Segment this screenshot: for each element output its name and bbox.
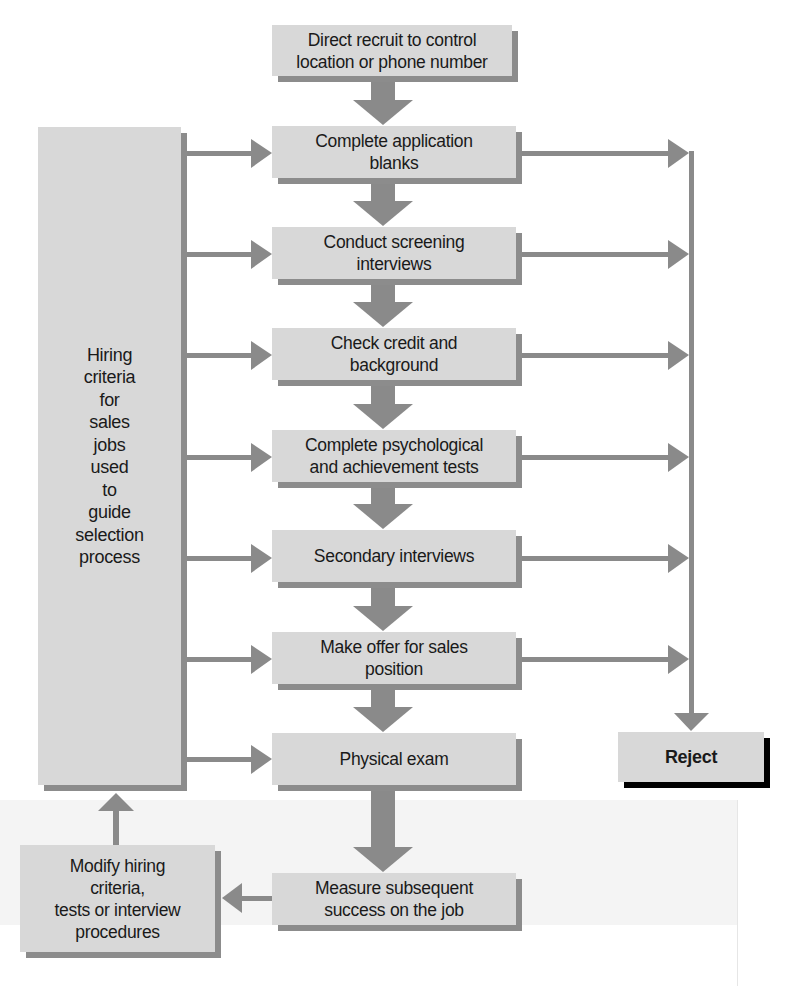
step-label: Secondary interviews <box>314 545 474 567</box>
right-arrow-icon <box>186 240 272 269</box>
step-label: Physical exam <box>340 748 449 770</box>
step-psych-tests: Complete psychological and achievement t… <box>272 430 516 482</box>
step-label: Check credit and background <box>331 332 458 376</box>
reject-label: Reject <box>665 746 717 768</box>
right-arrow-icon <box>186 139 272 168</box>
left-arrow-icon <box>222 883 272 913</box>
step-measure-success: Measure subsequent success on the job <box>272 873 516 925</box>
up-arrow-icon <box>98 793 134 845</box>
step-label: Conduct screening interviews <box>324 231 465 275</box>
step-label: Measure subsequent success on the job <box>315 877 473 921</box>
right-arrow-icon <box>186 745 272 774</box>
right-arrow-icon <box>186 443 272 472</box>
right-arrow-icon <box>522 443 689 472</box>
down-arrow-icon <box>353 385 413 429</box>
reject-box: Reject <box>618 732 764 782</box>
down-arrow-icon <box>353 284 413 327</box>
down-arrow-icon <box>353 183 413 226</box>
down-arrow-icon <box>353 587 413 631</box>
step-physical-exam: Physical exam <box>272 733 516 785</box>
right-arrow-icon <box>522 544 689 573</box>
step-make-offer: Make offer for sales position <box>272 632 516 684</box>
right-arrow-icon <box>186 544 272 573</box>
step-label: Complete psychological and achievement t… <box>305 434 483 478</box>
right-arrow-icon <box>522 139 689 168</box>
criteria-connector-bar <box>181 133 186 790</box>
down-arrow-icon <box>353 487 413 529</box>
modify-criteria-label: Modify hiring criteria, tests or intervi… <box>55 855 181 943</box>
down-arrow-icon <box>353 689 413 732</box>
step-secondary-interviews: Secondary interviews <box>272 530 516 582</box>
reject-connector-line <box>689 151 694 715</box>
down-arrow-icon <box>674 713 709 731</box>
right-arrow-icon <box>186 645 272 674</box>
right-arrow-icon <box>186 341 272 370</box>
step-label: Complete application blanks <box>315 130 472 174</box>
step-label: Make offer for sales position <box>320 636 467 680</box>
right-arrow-icon <box>522 240 689 269</box>
step-application-blanks: Complete application blanks <box>272 126 516 178</box>
step-label: Direct recruit to control location or ph… <box>296 29 487 73</box>
hiring-criteria-label: Hiring criteria for sales jobs used to g… <box>75 344 143 569</box>
step-screening-interviews: Conduct screening interviews <box>272 227 516 279</box>
down-arrow-icon <box>353 82 413 125</box>
right-arrow-icon <box>522 645 689 674</box>
right-arrow-icon <box>522 341 689 370</box>
step-direct-recruit: Direct recruit to control location or ph… <box>272 25 512 76</box>
step-credit-background: Check credit and background <box>272 328 516 380</box>
modify-criteria-box: Modify hiring criteria, tests or intervi… <box>20 845 215 952</box>
hiring-criteria-box: Hiring criteria for sales jobs used to g… <box>38 127 181 785</box>
down-arrow-icon <box>353 790 413 872</box>
